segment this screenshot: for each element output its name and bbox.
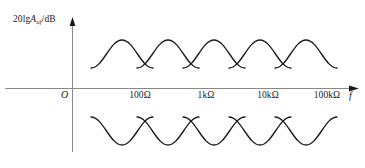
- lower-response-band: [91, 117, 337, 145]
- x-tick-label-100ohm: 100Ω: [129, 91, 151, 101]
- frequency-response-figure: 20lgAuf/dB O 100Ω 1kΩ 10kΩ 100kΩ f: [0, 0, 365, 168]
- origin-label: O: [61, 90, 68, 100]
- y-axis-label-suffix: /dB: [42, 14, 56, 24]
- lower-arc-3: [183, 117, 245, 145]
- plot-canvas: [0, 0, 365, 168]
- lower-arc-4: [229, 117, 291, 145]
- x-tick-label-1kohm: 1kΩ: [198, 91, 215, 101]
- lower-arc-5: [275, 117, 337, 145]
- x-axis-label: f: [349, 91, 352, 101]
- y-axis-arrowhead: [70, 17, 76, 26]
- x-tick-label-100kohm: 100kΩ: [314, 91, 341, 101]
- y-axis-label: 20lgAuf/dB: [13, 15, 56, 25]
- upper-arc-3: [183, 40, 245, 68]
- y-axis-label-subscript: uf: [36, 18, 42, 25]
- lower-arc-1: [91, 117, 153, 145]
- x-tick-label-10kohm: 10kΩ: [257, 91, 279, 101]
- lower-arc-2: [137, 117, 199, 145]
- upper-arc-4: [229, 40, 291, 68]
- y-axis-label-prefix: 20lg: [13, 14, 30, 24]
- upper-arc-2: [137, 40, 199, 68]
- upper-arc-5: [275, 40, 337, 68]
- upper-arc-1: [91, 40, 153, 68]
- upper-response-band: [91, 40, 337, 68]
